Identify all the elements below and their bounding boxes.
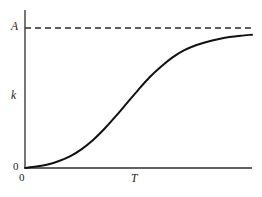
asymptote-label-A: A [11, 21, 18, 33]
origin-label-x-zero: 0 [19, 172, 25, 183]
logistic-growth-curve [25, 35, 252, 168]
x-axis-label-T: T [131, 173, 137, 185]
plot-canvas [0, 0, 262, 197]
logistic-growth-figure: A k 0 0 T [0, 0, 262, 197]
y-axis-label-k: k [11, 90, 16, 102]
origin-label-y-zero: 0 [13, 161, 19, 172]
